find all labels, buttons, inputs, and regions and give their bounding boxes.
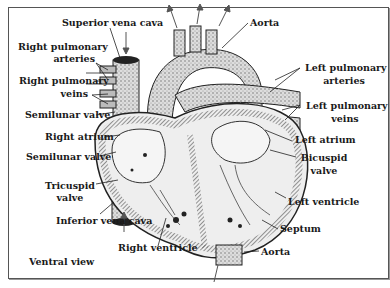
label-right-pulmonary-veins-line1: Right pulmonary xyxy=(19,75,109,86)
label-ventral-view: Ventral view xyxy=(29,256,94,267)
descending-aorta xyxy=(216,245,242,265)
label-bicuspid-valve-line2: valve xyxy=(296,165,352,176)
label-semilunar-valve-upper: Semilunar valve xyxy=(25,109,110,120)
label-superior-vena-cava: Superior vena cava xyxy=(62,17,163,28)
label-inferior-vena-cava: Inferior vena cava xyxy=(56,215,152,226)
aortic-branches xyxy=(174,26,217,56)
label-aorta-bottom: Aorta xyxy=(261,246,290,257)
label-semilunar-valve-lower: Semilunar valve xyxy=(26,151,111,162)
label-tricuspid-valve-line1: Tricuspid xyxy=(44,180,96,191)
label-left-pulmonary-veins-line2: veins xyxy=(306,113,384,124)
label-septum: Septum xyxy=(280,223,321,234)
label-tricuspid-valve-line2: valve xyxy=(44,192,96,203)
label-aorta-top: Aorta xyxy=(250,17,279,28)
label-left-pulmonary-arteries-line1: Left pulmonary xyxy=(305,62,387,73)
label-right-ventricle: Right ventricle xyxy=(118,242,198,253)
label-right-pulmonary-arteries-line2: arteries xyxy=(18,53,95,64)
label-right-atrium: Right atrium xyxy=(45,131,114,142)
label-bicuspid-valve-line1: Bicuspid xyxy=(296,152,352,163)
label-right-pulmonary-arteries-line1: Right pulmonary xyxy=(18,41,98,52)
label-left-pulmonary-arteries-line2: arteries xyxy=(305,75,383,86)
label-left-pulmonary-veins-line1: Left pulmonary xyxy=(306,100,388,111)
label-left-atrium: Left atrium xyxy=(295,134,356,145)
label-right-pulmonary-veins-line2: veins xyxy=(18,88,88,99)
label-left-ventricle: Left ventricle xyxy=(288,196,359,207)
left-atrium-chamber xyxy=(212,121,270,163)
